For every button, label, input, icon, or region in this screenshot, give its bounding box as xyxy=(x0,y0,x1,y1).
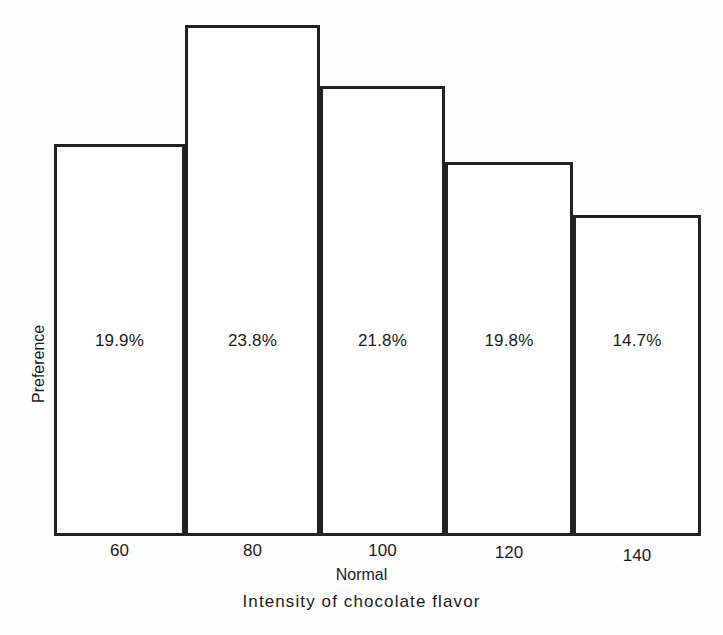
x-tick-label-140: 140 xyxy=(573,546,701,566)
bar-value-label-140: 14.7% xyxy=(573,331,701,351)
bar-value-label-120: 19.8% xyxy=(445,331,573,351)
x-tick-label-100: 100 xyxy=(320,541,445,561)
bar-140[interactable] xyxy=(573,215,701,536)
bar-value-label-60: 19.9% xyxy=(54,331,185,351)
bar-value-label-100: 21.8% xyxy=(320,331,445,351)
x-tick-label-60: 60 xyxy=(54,541,185,561)
normal-annotation: Normal xyxy=(0,566,723,584)
bar-100[interactable] xyxy=(320,86,445,536)
x-axis-baseline xyxy=(54,533,701,536)
bar-80[interactable] xyxy=(185,25,320,536)
plot-area: 19.9% 23.8% 21.8% 19.8% 14.7% 60 80 100 … xyxy=(0,0,723,635)
y-axis-title: Preference xyxy=(30,325,48,403)
chart-figure: 19.9% 23.8% 21.8% 19.8% 14.7% 60 80 100 … xyxy=(0,0,723,635)
x-tick-label-120: 120 xyxy=(445,543,573,563)
x-axis-caption: Intensity of chocolate flavor xyxy=(0,592,723,612)
x-tick-label-80: 80 xyxy=(185,541,320,561)
bar-value-label-80: 23.8% xyxy=(185,331,320,351)
